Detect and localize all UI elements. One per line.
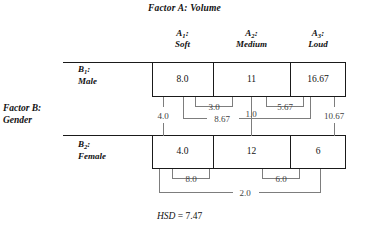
value-female-soft-vs-medium: 8.0 xyxy=(185,174,197,184)
value-loud-male-vs-female: 10.67 xyxy=(324,111,345,121)
value-medium-male-vs-female: 1.0 xyxy=(245,109,257,119)
value-female-soft-vs-loud: 2.0 xyxy=(239,188,251,198)
value-female-medium-vs-loud: 6.0 xyxy=(275,174,287,184)
female-row-box xyxy=(153,136,346,169)
comparison-values: 3.0 5.67 4.0 8.67 1.0 10.67 8.0 6.0 2.0 xyxy=(157,102,344,198)
value-male-medium-vs-loud: 5.67 xyxy=(277,102,293,112)
male-row-box xyxy=(153,63,346,97)
comparison-diagram: 3.0 5.67 4.0 8.67 1.0 10.67 8.0 6.0 2.0 xyxy=(0,0,369,230)
connector-female-soft-vs-loud-right xyxy=(259,169,321,193)
value-male-soft-vs-female-medium: 8.67 xyxy=(214,114,230,124)
value-male-soft-vs-medium: 3.0 xyxy=(208,102,220,112)
value-soft-male-vs-female: 4.0 xyxy=(157,111,169,121)
table-grid xyxy=(63,63,346,169)
